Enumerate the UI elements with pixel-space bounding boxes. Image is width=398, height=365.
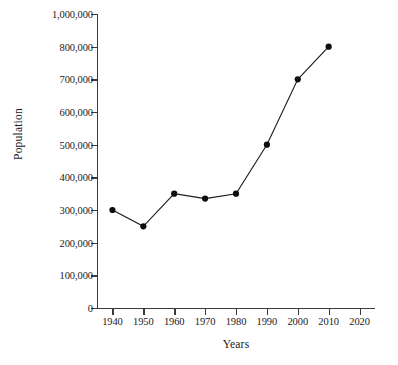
x-tick-mark <box>298 308 299 315</box>
data-point <box>233 191 239 197</box>
plot-area: 0100,000200,000300,000400,000500,000600,… <box>97 14 375 308</box>
x-tick-mark <box>360 308 361 315</box>
x-tick-mark <box>143 308 144 315</box>
y-axis-title: Population <box>12 84 24 184</box>
x-tick-label: 1990 <box>257 316 278 327</box>
x-tick-label: 1960 <box>164 316 185 327</box>
data-point <box>109 207 115 213</box>
x-tick-label: 2010 <box>318 316 339 327</box>
y-tick-label: 100,000 <box>60 270 93 281</box>
y-tick-label: 400,000 <box>60 172 93 183</box>
x-axis-title: Years <box>97 338 375 350</box>
x-tick-mark <box>236 308 237 315</box>
data-point <box>295 76 301 82</box>
population-line <box>112 47 328 227</box>
x-tick-mark <box>329 308 330 315</box>
y-tick-label: 700,000 <box>60 74 93 85</box>
data-point <box>171 191 177 197</box>
population-series <box>97 14 375 308</box>
x-tick-label: 1970 <box>195 316 216 327</box>
x-tick-mark <box>267 308 268 315</box>
data-point <box>326 44 332 50</box>
x-tick-label: 1980 <box>226 316 247 327</box>
x-tick-label: 2000 <box>287 316 308 327</box>
faint-scan-header <box>96 0 326 10</box>
data-point <box>202 195 208 201</box>
y-tick-label: 600,000 <box>60 107 93 118</box>
x-tick-mark <box>112 308 113 315</box>
y-tick-label: 200,000 <box>60 237 93 248</box>
data-point <box>140 223 146 229</box>
x-tick-label: 1950 <box>133 316 154 327</box>
y-tick-label: 800,000 <box>60 41 93 52</box>
y-tick-label: 1,000,000 <box>52 9 93 20</box>
x-tick-mark <box>174 308 175 315</box>
y-tick-label: 500,000 <box>60 139 93 150</box>
x-tick-mark <box>205 308 206 315</box>
y-tick-label: 0 <box>88 303 93 314</box>
data-point <box>264 142 270 148</box>
x-tick-label: 1940 <box>102 316 123 327</box>
y-tick-label: 300,000 <box>60 205 93 216</box>
population-markers <box>109 44 331 230</box>
chart-figure: Population 0100,000200,000300,000400,000… <box>0 0 398 365</box>
x-tick-label: 2020 <box>349 316 370 327</box>
